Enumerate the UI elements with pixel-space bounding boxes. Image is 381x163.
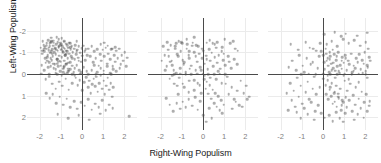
data-point bbox=[177, 93, 180, 96]
data-point bbox=[340, 67, 343, 70]
x-tick-label: -1 bbox=[179, 132, 186, 141]
data-point bbox=[319, 42, 322, 45]
data-point bbox=[230, 67, 233, 70]
data-point bbox=[52, 93, 55, 96]
data-point bbox=[361, 59, 364, 62]
data-point bbox=[331, 49, 334, 52]
data-point bbox=[223, 38, 226, 41]
x-tick-label: -1 bbox=[58, 132, 65, 141]
data-point bbox=[325, 93, 328, 96]
data-point bbox=[225, 82, 228, 85]
data-point bbox=[362, 116, 365, 119]
x-tick-label: 0 bbox=[80, 132, 84, 141]
data-point bbox=[222, 52, 225, 55]
data-point bbox=[119, 63, 122, 66]
data-point bbox=[55, 102, 58, 105]
y-tick-label: 0 bbox=[22, 70, 26, 79]
data-point bbox=[44, 62, 47, 65]
data-point bbox=[345, 69, 348, 72]
data-point bbox=[331, 120, 334, 123]
data-point bbox=[355, 57, 358, 60]
data-point bbox=[348, 99, 351, 102]
data-point bbox=[166, 41, 169, 44]
data-point bbox=[215, 46, 218, 49]
data-point bbox=[54, 53, 57, 56]
data-point bbox=[340, 59, 343, 62]
data-point bbox=[336, 45, 339, 48]
data-point bbox=[78, 114, 81, 117]
data-point bbox=[229, 42, 232, 45]
data-point bbox=[43, 69, 46, 72]
data-point bbox=[187, 91, 190, 94]
data-point bbox=[207, 93, 210, 96]
data-point bbox=[236, 90, 239, 93]
data-point bbox=[74, 44, 77, 47]
data-point bbox=[101, 87, 104, 90]
data-point bbox=[220, 99, 223, 102]
data-point bbox=[335, 85, 338, 88]
data-point bbox=[93, 50, 96, 53]
y-tick-label: 1 bbox=[22, 91, 26, 100]
data-point bbox=[302, 65, 305, 68]
data-point bbox=[217, 70, 220, 73]
data-point bbox=[78, 59, 81, 62]
data-point bbox=[90, 108, 93, 111]
data-point bbox=[326, 43, 329, 46]
data-point bbox=[242, 92, 245, 95]
data-point bbox=[51, 82, 54, 85]
data-point bbox=[95, 75, 98, 78]
data-point bbox=[50, 50, 53, 53]
data-point bbox=[55, 36, 58, 39]
data-point bbox=[209, 77, 212, 80]
x-tick-label: 0 bbox=[201, 132, 205, 141]
data-point bbox=[179, 67, 182, 70]
data-point bbox=[316, 67, 319, 70]
data-point bbox=[99, 43, 102, 46]
data-point bbox=[93, 64, 96, 67]
data-point bbox=[99, 113, 102, 116]
data-point bbox=[194, 69, 197, 72]
data-point bbox=[367, 47, 370, 50]
data-point bbox=[318, 55, 321, 58]
data-point bbox=[205, 54, 208, 57]
data-point bbox=[46, 56, 49, 59]
data-point bbox=[165, 65, 168, 68]
data-point bbox=[304, 91, 307, 94]
data-point bbox=[183, 61, 186, 64]
data-point bbox=[206, 58, 209, 61]
y-tick-label: -1 bbox=[19, 48, 26, 57]
data-point bbox=[107, 77, 110, 80]
data-point bbox=[348, 78, 351, 81]
data-point bbox=[209, 59, 212, 62]
data-point bbox=[188, 50, 191, 53]
data-point bbox=[230, 86, 233, 89]
data-point bbox=[216, 41, 219, 44]
data-point bbox=[75, 50, 78, 53]
data-point bbox=[220, 82, 223, 85]
data-point bbox=[116, 57, 119, 60]
data-point bbox=[104, 109, 107, 112]
data-point bbox=[171, 64, 174, 67]
data-point bbox=[346, 90, 349, 93]
data-point bbox=[99, 53, 102, 56]
data-point bbox=[233, 58, 236, 61]
data-point bbox=[328, 114, 331, 117]
data-point bbox=[67, 88, 70, 91]
data-point bbox=[368, 56, 371, 59]
data-point bbox=[88, 80, 91, 83]
data-point bbox=[75, 53, 78, 56]
data-point bbox=[210, 97, 213, 100]
data-point bbox=[61, 50, 64, 53]
data-point bbox=[335, 55, 338, 58]
data-point bbox=[216, 62, 219, 65]
data-point bbox=[338, 97, 341, 100]
data-point bbox=[111, 95, 114, 98]
data-point bbox=[45, 92, 48, 95]
data-point bbox=[94, 57, 97, 60]
data-point bbox=[222, 59, 225, 62]
data-point bbox=[196, 60, 199, 63]
data-point bbox=[208, 107, 211, 110]
data-point bbox=[67, 70, 70, 73]
data-point bbox=[120, 54, 123, 57]
data-point bbox=[310, 101, 313, 104]
